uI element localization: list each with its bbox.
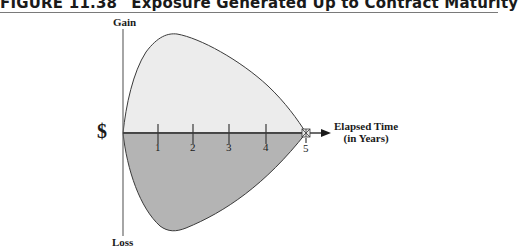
loss-label: Loss: [112, 236, 133, 248]
x-tick-label-4: 4: [263, 141, 269, 153]
loss-region: [123, 133, 306, 231]
gain-label: Gain: [113, 16, 136, 28]
x-tick-label-5: 5: [303, 142, 309, 154]
x-axis-title-line2: (in Years): [334, 132, 398, 144]
x-tick-label-1: 1: [155, 141, 161, 153]
x-axis-title: Elapsed Time (in Years): [334, 120, 398, 144]
gain-region: [123, 34, 306, 133]
x-tick-label-3: 3: [226, 141, 232, 153]
x-axis-title-line1: Elapsed Time: [334, 120, 398, 132]
x-tick-label-2: 2: [190, 141, 196, 153]
dollar-origin-label: $: [97, 120, 107, 143]
x-axis-arrow-icon: [321, 129, 331, 137]
maturity-marker-icon: [302, 129, 310, 137]
